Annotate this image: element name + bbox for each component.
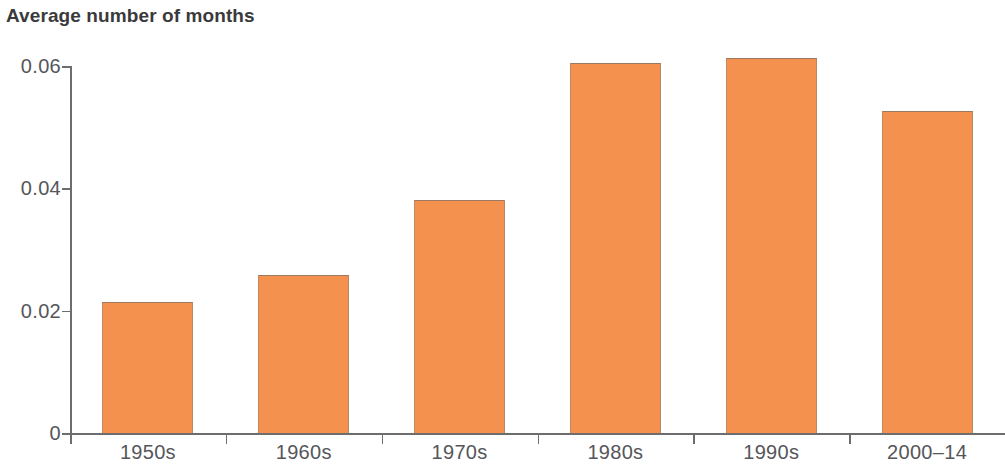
x-tick-mark xyxy=(70,433,72,444)
bar xyxy=(882,111,973,433)
y-axis-line xyxy=(70,66,72,433)
bar xyxy=(726,58,817,433)
bar xyxy=(570,63,661,433)
x-tick-mark xyxy=(382,433,384,444)
y-tick-label: 0.06 xyxy=(21,55,61,78)
x-tick-mark xyxy=(538,433,540,444)
x-tick-mark xyxy=(226,433,228,444)
x-tick-mark xyxy=(849,433,851,444)
y-tick-label: 0.02 xyxy=(21,299,61,322)
x-category-label: 1950s xyxy=(120,441,176,464)
x-category-label: 1970s xyxy=(432,441,488,464)
bar xyxy=(102,302,193,434)
x-category-label: 1960s xyxy=(276,441,332,464)
bar xyxy=(414,200,505,433)
x-category-label: 1980s xyxy=(587,441,643,464)
y-tick-mark xyxy=(62,66,71,68)
x-category-label: 1990s xyxy=(743,441,799,464)
y-tick-mark xyxy=(62,311,71,313)
bar xyxy=(258,275,349,433)
y-tick-mark xyxy=(62,188,71,190)
x-category-label: 2000–14 xyxy=(887,441,967,464)
y-tick-label: 0 xyxy=(50,422,61,445)
chart-title: Average number of months xyxy=(6,5,255,27)
x-tick-mark xyxy=(693,433,695,444)
plot-area: 0.060.040.020 xyxy=(70,60,1005,433)
chart-figure: Average number of months 0.060.040.020 1… xyxy=(0,0,1005,472)
y-tick-label: 0.04 xyxy=(21,177,61,200)
